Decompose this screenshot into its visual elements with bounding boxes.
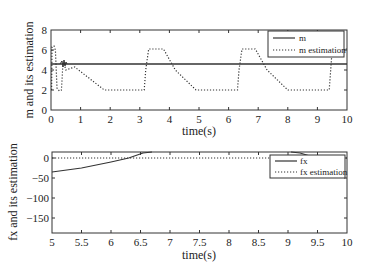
series-fx-line [52, 152, 152, 172]
x-tick-label: 6 [108, 236, 114, 248]
x-tick-label: 10 [342, 236, 354, 248]
x-tick-label: 7 [167, 236, 173, 248]
bottom-y-tick-labels: 0 −50 −100 −150 [26, 152, 49, 224]
legend-label-m: m [299, 33, 306, 43]
y-tick-label: 6 [42, 44, 48, 56]
top-plot: 0 1 2 3 4 5 6 7 8 9 10 0 2 4 6 8 time(s)… [22, 22, 353, 139]
y-tick-label: 0 [42, 104, 48, 116]
y-tick-label: 0 [44, 152, 50, 164]
x-tick-label: 9.5 [311, 236, 325, 248]
y-tick-label: 8 [42, 24, 48, 36]
y-tick-label: −50 [32, 172, 50, 184]
x-tick-label: 8 [285, 113, 291, 125]
y-tick-label: −150 [26, 212, 49, 224]
x-tick-label: 8.5 [252, 236, 266, 248]
top-y-tick-labels: 0 2 4 6 8 [42, 24, 48, 116]
x-tick-label: 5.5 [75, 236, 89, 248]
x-tick-label: 3 [137, 113, 143, 125]
bottom-legend: fx fx estimation [270, 155, 348, 178]
x-tick-label: 4 [167, 113, 173, 125]
x-tick-label: 6.5 [134, 236, 148, 248]
bottom-plot: 5 5.5 6 6.5 7 7.5 8 8.5 9 9.5 10 0 −50 −… [6, 143, 353, 262]
y-tick-label: 4 [42, 64, 48, 76]
x-tick-label: 1 [78, 113, 84, 125]
top-legend: m m estimation [268, 31, 346, 57]
x-tick-label: 5 [49, 236, 55, 248]
x-tick-label: 10 [342, 113, 354, 125]
y-tick-label: 2 [42, 84, 48, 96]
x-tick-label: 2 [107, 113, 113, 125]
legend-label-m-estimation: m estimation [299, 45, 346, 55]
x-tick-label: 9 [285, 236, 291, 248]
y-tick-label: −100 [26, 192, 49, 204]
x-tick-label: 0 [48, 113, 54, 125]
x-tick-label: 7 [255, 113, 261, 125]
x-tick-label: 8 [226, 236, 232, 248]
legend-label-fx: fx [300, 156, 308, 166]
x-tick-label: 7.5 [193, 236, 207, 248]
legend-label-fx-estimation: fx estimation [300, 167, 348, 177]
bottom-x-tick-labels: 5 5.5 6 6.5 7 7.5 8 8.5 9 9.5 10 [49, 236, 353, 248]
top-y-axis-label: m and its estimation [22, 22, 36, 119]
bottom-x-axis-label: time(s) [182, 248, 216, 262]
bottom-y-axis-label: fx and its estimation [6, 143, 20, 241]
top-x-axis-label: time(s) [182, 124, 216, 138]
x-tick-label: 9 [315, 113, 321, 125]
x-tick-label: 6 [226, 113, 232, 125]
figure: 0 1 2 3 4 5 6 7 8 9 10 0 2 4 6 8 time(s)… [0, 0, 371, 276]
